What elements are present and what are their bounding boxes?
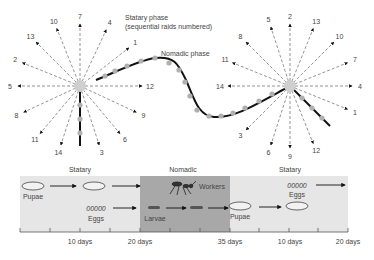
raid-number: 9 <box>141 112 145 119</box>
nomadic-phase-label: Nomadic phase <box>161 50 210 58</box>
raid-ray <box>290 86 313 143</box>
raid-number: 8 <box>15 112 19 119</box>
pupa-icon <box>229 202 251 210</box>
statary-phase-subtitle: (sequential raids numbered) <box>125 23 212 31</box>
raid-number: 5 <box>8 83 12 90</box>
raid-ray <box>290 42 334 86</box>
phase-label-statary-1: Statary <box>69 166 92 174</box>
tick-label: 20 days <box>128 238 153 246</box>
raid-ray <box>61 86 80 145</box>
pupae-label-2: Pupae <box>230 213 250 221</box>
larvae-label: Larvae <box>144 215 166 222</box>
raid-ray <box>40 86 80 133</box>
raid-number: 2 <box>13 56 17 63</box>
workers-label: Workers <box>199 183 225 190</box>
raid-number: 3 <box>239 132 243 139</box>
raid-number: 12 <box>312 147 320 154</box>
phase-label-statary-2: Statary <box>279 166 302 174</box>
tick-label: 10 days <box>68 238 93 246</box>
army-ant-cycle-diagram: 7411296314118521310 2131074112963141185 … <box>0 0 374 260</box>
phase-label-nomadic: Nomadic <box>169 166 197 173</box>
left-colony-center <box>74 80 86 92</box>
raid-number: 1 <box>133 39 137 46</box>
raid-ray <box>271 27 290 86</box>
raid-number: 6 <box>266 149 270 156</box>
raid-ray <box>80 86 99 145</box>
raid-ray <box>246 86 290 130</box>
eggs-label-2: Eggs <box>289 191 305 199</box>
tick-label: 35 days <box>218 238 243 246</box>
raid-number: 10 <box>336 33 344 40</box>
eggs-icon: 00000 <box>287 182 307 189</box>
raid-ray <box>80 86 136 112</box>
raid-number: 3 <box>100 149 104 156</box>
tick-label: 10 days <box>278 238 303 246</box>
raid-number: 7 <box>353 56 357 63</box>
eggs-label-1: Eggs <box>88 215 104 223</box>
raid-number: 13 <box>27 33 35 40</box>
raid-number: 14 <box>216 83 224 90</box>
pupa-icon <box>286 202 308 210</box>
raid-ray <box>80 86 120 133</box>
raid-number: 2 <box>288 13 292 20</box>
raid-number: 10 <box>50 18 58 25</box>
larva-icon <box>190 206 203 209</box>
raid-number: 11 <box>221 56 228 63</box>
raid-number: 8 <box>239 33 243 40</box>
raid-ray <box>290 29 313 86</box>
pupae-label-1: Pupae <box>23 193 43 201</box>
raid-ray <box>57 29 80 86</box>
raid-number: 12 <box>146 83 154 90</box>
raid-ray <box>290 63 347 86</box>
raid-number: 11 <box>31 136 38 143</box>
eggs-icon: 00000 <box>86 205 106 212</box>
raid-ray <box>290 86 347 109</box>
raid-number: 9 <box>288 153 292 160</box>
pupa-icon <box>83 182 105 190</box>
raid-number: 14 <box>54 149 62 156</box>
raid-number: 6 <box>123 136 127 143</box>
statary-phase-title: Statary phase <box>125 14 168 22</box>
raid-number: 7 <box>78 13 82 20</box>
right-colony-center <box>284 80 296 92</box>
raid-ray <box>24 86 80 112</box>
raid-number: 5 <box>266 16 270 23</box>
raid-ray <box>23 63 80 86</box>
raid-ray <box>246 42 290 86</box>
raid-ray <box>36 42 80 86</box>
raid-number: 4 <box>108 19 112 26</box>
larva-icon <box>148 206 160 209</box>
statary-tail-right <box>290 86 330 126</box>
raid-number: 13 <box>312 18 320 25</box>
raid-ray <box>233 63 290 86</box>
raid-number: 4 <box>358 83 362 90</box>
pupa-icon <box>22 182 44 190</box>
raid-ray <box>80 48 129 86</box>
raid-number: 1 <box>353 109 357 116</box>
tick-label: 20 days <box>336 238 361 246</box>
